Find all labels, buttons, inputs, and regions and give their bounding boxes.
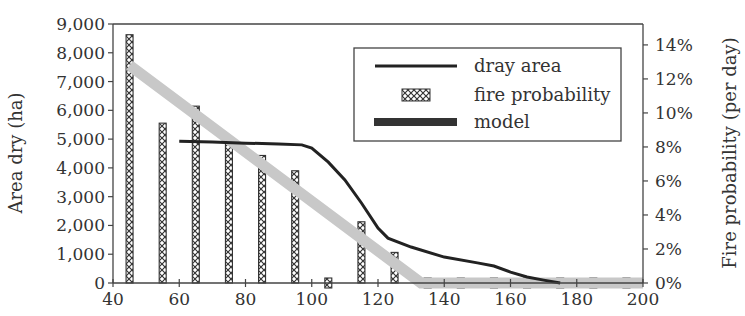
y-tick-label: 4,000	[56, 158, 105, 178]
y-axis-left-title: Area dry (ha)	[5, 92, 26, 214]
y2-tick-label: 8%	[655, 137, 682, 157]
y2-tick-label: 0%	[655, 273, 682, 293]
fire-probability-bar	[259, 155, 266, 283]
y-axis-right-title: Fire probability (per day)	[719, 37, 740, 268]
y-tick-label: 1,000	[56, 244, 105, 264]
fire-probability-bar	[192, 106, 199, 283]
legend: dray area fire probability model	[354, 48, 621, 141]
fire-probability-bar	[225, 137, 232, 283]
y-tick-label: 8,000	[56, 43, 105, 63]
legend-swatch-fire-probability	[402, 89, 430, 101]
y-tick-label: 5,000	[56, 129, 105, 149]
y2-tick-label: 4%	[655, 205, 682, 225]
chart: 406080100120140160180200 01,0002,0003,00…	[0, 0, 745, 316]
y-tick-label: 7,000	[56, 72, 105, 92]
x-tick-label: 140	[428, 289, 460, 309]
x-tick-label: 120	[362, 289, 394, 309]
y-tick-label: 0	[94, 273, 105, 293]
legend-label-fire-probability: fire probability	[474, 84, 611, 105]
y2-tick-label: 10%	[655, 103, 693, 123]
y-tick-label: 6,000	[56, 100, 105, 120]
y-tick-label: 3,000	[56, 187, 105, 207]
y2-tick-label: 6%	[655, 171, 682, 191]
x-tick-label: 160	[494, 289, 526, 309]
y2-tick-label: 12%	[655, 69, 693, 89]
fire-probability-bar	[159, 123, 166, 283]
legend-label-dray-area: dray area	[474, 55, 562, 76]
x-tick-label: 180	[561, 289, 593, 309]
x-tick-label: 40	[102, 289, 124, 309]
y2-tick-label: 2%	[655, 239, 682, 259]
x-tick-label: 80	[235, 289, 257, 309]
dray-area-line	[179, 141, 560, 283]
y2-tick-label: 14%	[655, 35, 693, 55]
legend-label-model: model	[474, 111, 530, 132]
x-tick-label: 60	[168, 289, 190, 309]
y-tick-label: 9,000	[56, 14, 105, 34]
y-axis-right-ticks: 0%2%4%6%8%10%12%14%	[643, 35, 693, 293]
legend-swatch-model	[374, 118, 457, 126]
y-tick-label: 2,000	[56, 215, 105, 235]
y-axis-left-ticks: 01,0002,0003,0004,0005,0006,0007,0008,00…	[56, 14, 113, 293]
x-tick-label: 100	[296, 289, 328, 309]
